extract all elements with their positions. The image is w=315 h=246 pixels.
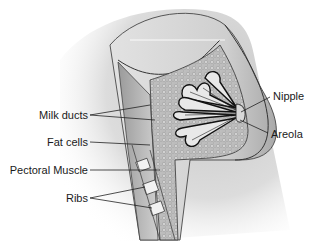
breast-anatomy-diagram: Milk ducts Fat cells Pectoral Muscle Rib…: [0, 0, 315, 246]
label-fat-cells: Fat cells: [10, 136, 88, 148]
label-pectoral-muscle: Pectoral Muscle: [0, 164, 88, 176]
label-nipple: Nipple: [273, 90, 304, 102]
label-milk-ducts: Milk ducts: [10, 109, 88, 121]
label-ribs: Ribs: [10, 192, 88, 204]
label-areola: Areola: [271, 128, 303, 140]
anatomy-illustration: [0, 0, 315, 246]
